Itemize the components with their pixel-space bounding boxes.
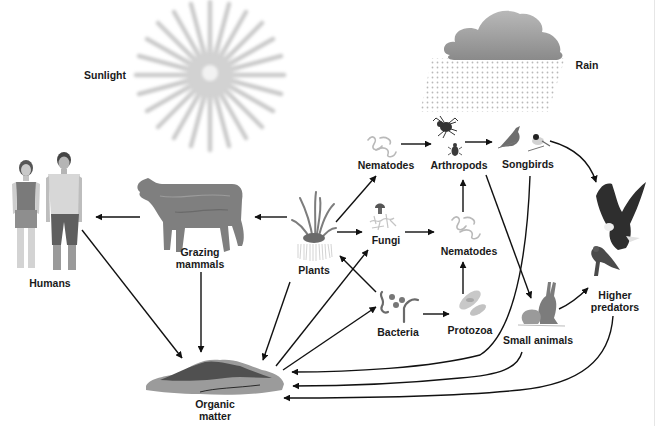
page-edge-divider [654,0,655,426]
label-rain: Rain [576,59,599,71]
bacteria-icon [381,292,418,322]
spider-beetle-icon [433,116,462,156]
label-songbirds: Songbirds [502,158,554,170]
arrows [82,141,613,398]
grass-plant-icon [292,192,336,261]
label-sunlight: Sunlight [84,69,126,81]
food-web-diagram: Sunlight Rain Nematodes Arthropods Songb… [0,0,661,426]
arrow-small-animals-to-organic-matter [293,352,522,386]
eagle-icon [596,182,646,250]
label-nematodes-top: Nematodes [358,159,415,171]
arrow-arthropods-to-small-animals [486,175,531,298]
label-grazing-mammals-line2: mammals [176,258,224,270]
sun-icon [136,2,284,150]
label-higher-predators-line2: predators [591,301,639,313]
label-nematodes-mid: Nematodes [441,245,498,257]
label-small-animals: Small animals [503,334,573,346]
arrow-small-animals-to-higher-predators [559,288,588,309]
mushroom-hyphae-icon [370,204,396,231]
songbirds-icon [498,126,550,151]
label-arthropods: Arthropods [430,159,487,171]
label-humans: Humans [29,277,70,289]
label-higher-predators: Higher predators [591,289,639,313]
label-higher-predators-line1: Higher [591,289,639,301]
label-bacteria: Bacteria [377,326,418,338]
label-grazing-mammals-line1: Grazing [176,246,224,258]
label-organic-matter-line2: matter [195,410,235,422]
arrow-plants-to-organic-matter [263,282,290,360]
nematode-icon-top [368,137,396,157]
rain-cloud-icon [420,11,565,112]
nematode-icon-mid [452,217,480,239]
arrow-plants-to-nematodes-top [336,176,376,222]
label-organic-matter: Organic matter [195,398,235,422]
organic-matter-pile-icon [146,360,284,395]
label-plants: Plants [298,264,330,276]
protozoa-icon [456,287,488,318]
hawk-icon [591,246,620,276]
label-grazing-mammals: Grazing mammals [176,246,224,270]
arrow-bacteria-to-plants [340,256,376,292]
label-protozoa: Protozoa [448,324,493,336]
rabbit-mouse-icon [518,282,565,326]
humans-icon [12,152,82,270]
cow-icon [137,178,243,252]
label-organic-matter-line1: Organic [195,398,235,410]
arrow-songbirds-to-higher-predators [550,141,596,182]
label-fungi: Fungi [372,234,401,246]
